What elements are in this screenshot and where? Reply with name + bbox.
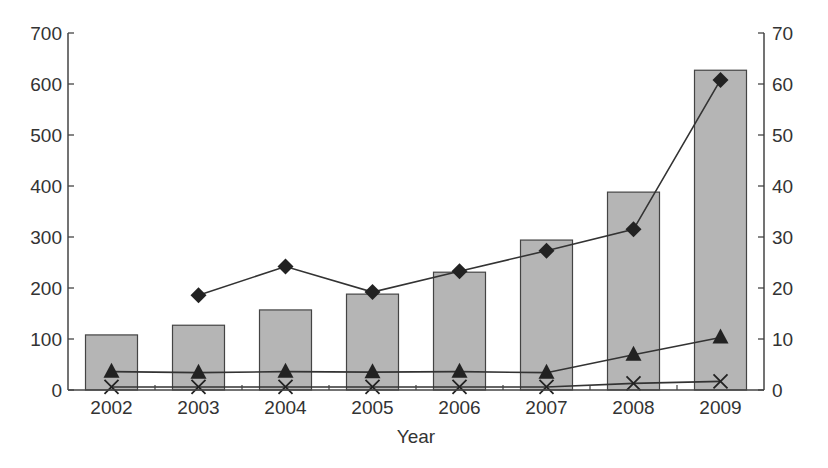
x-tick-label: 2006 xyxy=(438,397,480,418)
left-tick-label: 300 xyxy=(30,227,62,248)
x-tick-label: 2002 xyxy=(90,397,132,418)
left-tick-label: 400 xyxy=(30,176,62,197)
x-tick-label: 2003 xyxy=(177,397,219,418)
bar xyxy=(260,310,312,390)
x-tick-label: 2007 xyxy=(525,397,567,418)
left-tick-label: 0 xyxy=(51,380,62,401)
left-tick-label: 600 xyxy=(30,74,62,95)
left-tick-label: 700 xyxy=(30,23,62,44)
bar xyxy=(86,335,138,390)
x-tick-label: 2009 xyxy=(699,397,741,418)
right-tick-label: 10 xyxy=(772,329,793,350)
chart: 0100200300400500600700010203040506070200… xyxy=(0,0,828,468)
x-axis-label: Year xyxy=(397,426,436,447)
right-tick-label: 0 xyxy=(772,380,783,401)
diamond-marker xyxy=(278,259,294,275)
right-tick-label: 70 xyxy=(772,23,793,44)
diamond-marker xyxy=(191,287,207,303)
x-tick-label: 2008 xyxy=(612,397,654,418)
right-tick-label: 60 xyxy=(772,74,793,95)
right-tick-label: 40 xyxy=(772,176,793,197)
left-tick-label: 200 xyxy=(30,278,62,299)
right-tick-label: 20 xyxy=(772,278,793,299)
bar xyxy=(173,325,225,390)
left-tick-label: 500 xyxy=(30,125,62,146)
x-tick-label: 2005 xyxy=(351,397,393,418)
axes: 0100200300400500600700010203040506070200… xyxy=(30,23,793,418)
x-tick-label: 2004 xyxy=(264,397,307,418)
right-tick-label: 30 xyxy=(772,227,793,248)
right-tick-label: 50 xyxy=(772,125,793,146)
bar-series xyxy=(86,70,747,390)
left-tick-label: 100 xyxy=(30,329,62,350)
